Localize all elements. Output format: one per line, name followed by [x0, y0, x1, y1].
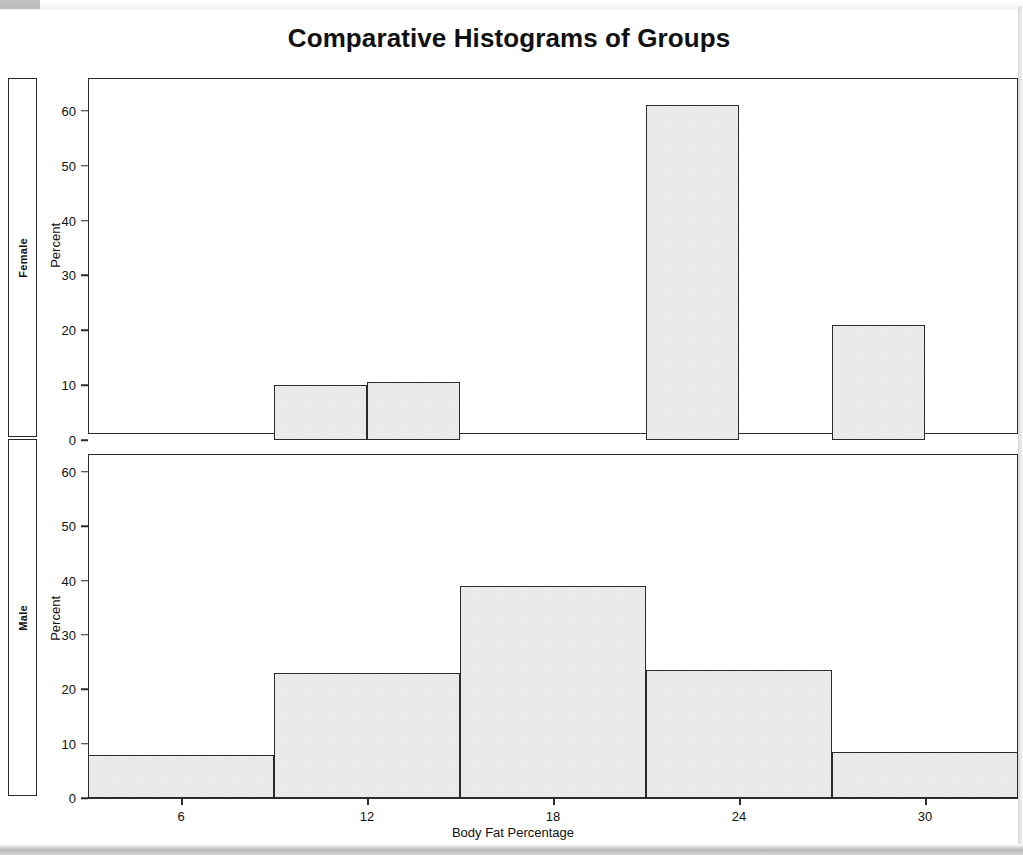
y-tick-mark-female-50	[81, 165, 88, 167]
x-tick-mark-30	[925, 798, 927, 805]
x-tick-mark-18	[553, 798, 555, 805]
x-tick-mark-12	[367, 798, 369, 805]
y-tick-mark-female-30	[81, 275, 88, 277]
y-tick-mark-male-10	[81, 743, 88, 745]
y-tick-mark-female-40	[81, 220, 88, 222]
x-tick-label-18: 18	[546, 809, 560, 824]
y-tick-label-female-40: 40	[62, 213, 76, 228]
y-axis-title-female: Percent	[48, 223, 63, 268]
histogram-bar	[274, 385, 367, 440]
y-tick-label-male-40: 40	[62, 573, 76, 588]
y-tick-label-female-50: 50	[62, 158, 76, 173]
y-tick-mark-female-60	[81, 110, 88, 112]
panel-female: Percent 0102030405060	[40, 75, 1018, 438]
x-tick-label-12: 12	[360, 809, 374, 824]
y-tick-mark-male-30	[81, 634, 88, 636]
y-tick-label-male-20: 20	[62, 682, 76, 697]
x-tick-label-24: 24	[732, 809, 746, 824]
y-tick-label-male-10: 10	[62, 736, 76, 751]
histogram-bar	[646, 670, 832, 798]
y-tick-label-female-20: 20	[62, 323, 76, 338]
panel-label-male-text: Male	[17, 605, 29, 631]
y-tick-mark-male-20	[81, 689, 88, 691]
chart-title: Comparative Histograms of Groups	[0, 23, 1018, 54]
panel-label-male: Male	[8, 439, 37, 796]
y-tick-label-male-50: 50	[62, 519, 76, 534]
histogram-bar	[88, 755, 274, 798]
y-tick-label-male-30: 30	[62, 627, 76, 642]
y-tick-mark-male-50	[81, 525, 88, 527]
x-tick-label-6: 6	[177, 809, 184, 824]
y-tick-mark-male-60	[81, 471, 88, 473]
y-tick-mark-female-20	[81, 330, 88, 332]
scan-right-edge	[1018, 6, 1023, 844]
y-tick-label-male-0: 0	[69, 791, 76, 806]
histogram-bar	[460, 586, 646, 798]
x-tick-label-30: 30	[918, 809, 932, 824]
histogram-figure: Comparative Histograms of Groups Female …	[0, 9, 1018, 845]
histogram-bar	[274, 673, 460, 798]
y-tick-label-male-60: 60	[62, 464, 76, 479]
panel-male: Percent 0102030405060 612182430	[40, 436, 1018, 801]
x-tick-mark-24	[739, 798, 741, 805]
histogram-bar	[646, 105, 739, 440]
y-tick-mark-male-0	[81, 797, 88, 799]
histogram-bar	[367, 382, 460, 440]
panel-label-female-text: Female	[17, 238, 29, 278]
x-tick-mark-6	[181, 798, 183, 805]
x-axis-title: Body Fat Percentage	[48, 825, 978, 840]
histogram-bar	[832, 752, 1018, 798]
scan-artifact-smudge	[0, 0, 40, 9]
y-tick-mark-female-10	[81, 384, 88, 386]
y-tick-label-female-10: 10	[62, 378, 76, 393]
y-tick-label-female-60: 60	[62, 103, 76, 118]
y-tick-label-female-30: 30	[62, 268, 76, 283]
histogram-bar	[832, 325, 925, 440]
scan-bottom-edge	[0, 844, 1023, 855]
y-tick-mark-male-40	[81, 580, 88, 582]
panel-label-female: Female	[8, 78, 37, 437]
